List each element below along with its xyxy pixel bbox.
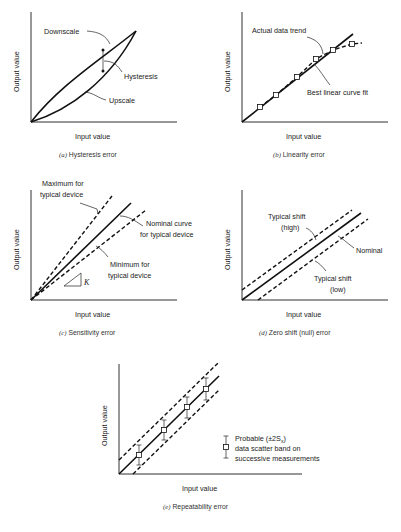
downscale-curve [31,31,136,122]
error-bar [185,397,190,418]
downscale-label: Downscale [44,27,79,36]
typical-shift-low-line [258,219,368,300]
actual-data-trend-label: Actual data trend [252,26,306,35]
nominal-label-line1: Nominal curve [146,219,192,228]
panel-d-zero-shift: Typical shift (high) Nominal Typical shi… [223,190,388,337]
high-shift-leader [306,228,316,240]
nominal-leader [338,236,354,248]
data-point [350,42,355,47]
best-linear-fit-label: Best linear curve fit [307,88,368,97]
panel-e-ylabel: Output value [100,405,109,446]
upper-band-line [119,362,219,460]
panel-c-ylabel: Output value [12,229,21,270]
best-fit-leader [314,64,330,85]
panel-e-caption: (e) Repeatability error [163,503,229,511]
panel-b-xlabel: Input value [286,132,321,141]
panel-a-xlabel: Input value [75,132,110,141]
maximum-leader [80,203,98,214]
panel-d-caption: (d) Zero shift (null) error [259,329,331,337]
maximum-label-line1: Maximum for [42,179,84,188]
data-point [331,48,336,53]
panel-a-hysteresis: Downscale Hysteresis Upscale Output valu… [12,12,177,159]
upscale-label: Upscale [109,96,135,105]
legend-line3: successive measurements [235,454,320,463]
upscale-leader [85,92,106,100]
panel-e-repeatability: Probable (±2Sx) data scatter band on suc… [100,362,320,511]
data-point [295,75,300,80]
legend-error-bar-icon [224,436,229,458]
maximum-label-line2: typical device [40,190,83,199]
slope-k-label: K [83,278,90,287]
actual-trend-leader [307,37,323,54]
figure-canvas: Downscale Hysteresis Upscale Output valu… [0,0,401,532]
data-point [274,93,279,98]
minimum-label-line2: typical device [108,271,151,280]
nominal-label: Nominal [356,246,383,255]
panel-e-xlabel: Input value [182,484,217,493]
panel-b-caption: (b) Linearity error [273,151,325,159]
typical-shift-high-label-line1: Typical shift [268,212,306,221]
maximum-sensitivity-line [31,196,112,300]
legend-line1: Probable (±2Sx) [235,434,286,444]
downscale-leader [87,31,110,44]
hysteresis-label: Hysteresis [124,72,158,81]
legend-line2: data scatter band on [235,444,301,453]
upscale-curve [31,31,136,122]
lower-band-line [133,390,219,474]
panel-a-ylabel: Output value [12,51,21,92]
panel-c-sensitivity: K Maximum for typical device Nominal cur… [12,179,194,337]
panel-d-xlabel: Input value [286,310,321,319]
panel-d-ylabel: Output value [223,229,232,270]
typical-shift-low-label-line1: Typical shift [314,274,352,283]
panel-c-caption: (c) Sensitivity error [59,329,116,337]
data-point [314,57,319,62]
low-shift-leader [315,261,326,271]
nominal-leader [120,216,143,226]
nominal-label-line2: for typical device [140,230,194,239]
panel-b-linearity: Actual data trend Best linear curve fit … [223,12,388,159]
panel-c-xlabel: Input value [75,310,110,319]
error-bar [204,378,209,400]
slope-triangle-icon [64,273,81,286]
error-bar [162,420,167,440]
data-point [258,105,263,110]
minimum-label-line1: Minimum for [110,260,150,269]
error-bar [137,445,142,465]
panel-a-caption: (a) Hysteresis error [59,151,118,159]
panel-b-ylabel: Output value [223,51,232,92]
typical-shift-high-label-line2: (high) [281,223,299,232]
typical-shift-low-label-line2: (low) [330,285,346,294]
